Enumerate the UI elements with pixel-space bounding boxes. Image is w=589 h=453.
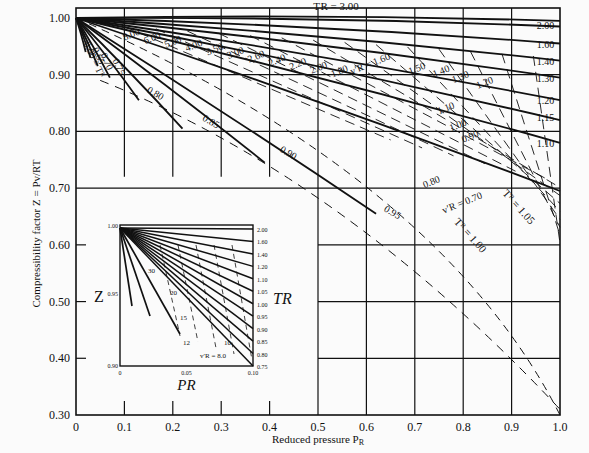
y-tick-label: 0.60 [49, 238, 70, 252]
inset-x-tick: 0.10 [248, 370, 259, 376]
label-TR-3: T [313, 0, 320, 11]
inset-xlabel: PR [176, 377, 195, 393]
label-vR: v′R = 0.70 [440, 190, 483, 216]
label-TR: 2.00 [537, 20, 555, 31]
x-tick-label: 0.4 [262, 420, 277, 434]
inset-ylabel: Z [94, 288, 104, 305]
label-TR-critical: Tᴿ = 1.05 [500, 187, 537, 227]
x-tick-label: 0.8 [456, 420, 471, 434]
svg-text:R = 3.00: R = 3.00 [320, 0, 359, 11]
inset-TR-tick: 0.75 [257, 364, 268, 370]
compressibility-chart: 2.001.601.401.301.201.151.10TR = 3.000.6… [0, 0, 589, 453]
label-vR: 0.80 [421, 173, 441, 190]
inset-TR-tick: 0.90 [257, 327, 268, 333]
y-tick-label: 0.50 [49, 295, 70, 309]
y-tick-label: 0.80 [49, 124, 70, 138]
label-vR: v′R = 1.60 [349, 51, 392, 77]
x-axis-label: Reduced pressure PR [272, 433, 365, 447]
x-tick-label: 0 [73, 420, 79, 434]
x-tick-label: 0.1 [117, 420, 132, 434]
inset-TR-tick: 1.20 [257, 264, 268, 270]
label-vR: 1.40 [431, 63, 451, 80]
inset-vR-label: 15 [180, 314, 188, 322]
inset-vR-label: 20 [170, 289, 178, 297]
y-tick-label: 0.90 [49, 68, 70, 82]
y-tick-label: 1.00 [49, 11, 70, 25]
label-vR: 1.20 [474, 74, 494, 91]
inset-vR-label: 30 [148, 267, 156, 275]
inset-TR-tick: 1.60 [257, 239, 268, 245]
x-tick-label: 0.9 [504, 420, 519, 434]
label-vR: 2.60 [246, 48, 266, 65]
inset-TR-tick: 0.80 [257, 352, 268, 358]
inset-x-tick: 0 [119, 370, 122, 376]
x-tick-label: 0.7 [407, 420, 422, 434]
label-TR-left: 0.85 [201, 112, 222, 130]
label-TR-left: 0.95 [382, 203, 403, 221]
svg-text:0.95: 0.95 [108, 291, 119, 297]
label-TR: 1.10 [537, 138, 555, 149]
x-tick-label: 0.2 [165, 420, 180, 434]
label-TR: 1.40 [537, 56, 555, 67]
y-tick-label: 0.70 [49, 181, 70, 195]
label-TR: 1.20 [537, 95, 555, 106]
y-tick-label: 0.40 [49, 351, 70, 365]
label-TR: 1.30 [537, 73, 555, 84]
vR-line [533, 56, 560, 243]
inset-TR-tick: 2.00 [257, 227, 268, 233]
inset-vR-label: 12 [183, 339, 191, 347]
inset-TR-tick: 0.85 [257, 339, 268, 345]
inset-TR-tick: 1.00 [257, 302, 268, 308]
inset-chart: 2.001.601.401.201.101.051.000.950.900.85… [94, 223, 292, 393]
label-TR: 1.60 [537, 39, 555, 50]
label-TR: 1.15 [537, 112, 555, 123]
inset-x-tick: 0.05 [181, 370, 192, 376]
y-tick-label: 0.30 [49, 408, 70, 422]
x-tick-label: 0.5 [311, 420, 326, 434]
inset-TR-tick: 0.95 [257, 314, 268, 320]
svg-text:1.00: 1.00 [108, 223, 119, 229]
y-axis-label: Compressibility factor Z = Pv/RT [30, 159, 42, 307]
inset-vR-label: v′R = 8.0 [200, 352, 226, 360]
inset-TR-tick: 1.40 [257, 252, 268, 258]
x-tick-label: 1.0 [553, 420, 568, 434]
inset-right-label: TR [273, 290, 292, 307]
label-TR-critical: Tᴿ = 1.00 [452, 215, 489, 255]
svg-text:0.90: 0.90 [108, 363, 119, 369]
x-tick-label: 0.3 [214, 420, 229, 434]
inset-vR-label: 10 [224, 339, 232, 347]
x-tick-label: 0.6 [359, 420, 374, 434]
label-vR: 2.20 [288, 55, 308, 72]
label-TR-left: 0.90 [278, 143, 299, 161]
inset-TR-tick: 1.05 [257, 289, 268, 295]
inset-isotherm [120, 228, 253, 229]
inset-TR-tick: 1.10 [257, 277, 268, 283]
